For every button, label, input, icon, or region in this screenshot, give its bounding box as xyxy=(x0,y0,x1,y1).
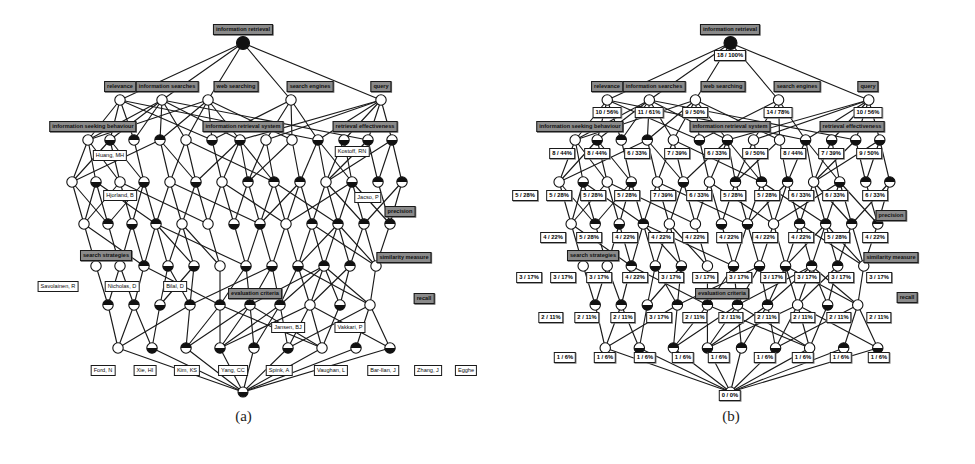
support-label-r5-9: 3 / 17% xyxy=(828,272,854,283)
support-label-r4-3: 4 / 22% xyxy=(648,232,674,243)
node-label-kim-ks: Kim, KS xyxy=(174,365,200,376)
support-label-r7-6: 1 / 6% xyxy=(792,352,814,363)
support-label-r7-0: 1 / 6% xyxy=(554,352,576,363)
node-label-spink-a: Spink, A xyxy=(266,365,293,376)
support-label-r7-8: 1 / 6% xyxy=(868,352,890,363)
support-label-r5-3: 4 / 22% xyxy=(622,272,648,283)
support-label-r7-1: 1 / 6% xyxy=(594,352,616,363)
support-label-r4-6: 4 / 22% xyxy=(752,232,778,243)
support-label-r4-4: 4 / 22% xyxy=(682,232,708,243)
support-label-r2-4: 6 / 33% xyxy=(704,148,730,159)
node-label-similarity-measure: similarity measure xyxy=(863,252,918,263)
node-label-recall: recall xyxy=(414,293,435,304)
node-label-query: query xyxy=(857,81,878,92)
support-label-r4-2: 4 / 22% xyxy=(612,232,638,243)
support-label-r5-5: 3 / 17% xyxy=(692,272,718,283)
support-label-r2-1: 8 / 44% xyxy=(584,148,610,159)
node-label-precision: precision xyxy=(385,206,416,217)
support-label-r3-2: 5 / 28% xyxy=(580,190,606,201)
support-label-r3-6: 5 / 28% xyxy=(720,190,746,201)
support-label-r5-1: 3 / 17% xyxy=(550,272,576,283)
node-label-query: query xyxy=(370,81,391,92)
node-label-nicholas-d: Nicholas, D xyxy=(105,281,140,292)
figure-container: information retrievalrelevanceinformatio… xyxy=(0,0,975,464)
support-label-r1-4: 10 / 56% xyxy=(854,107,883,118)
support-label-r1-3: 14 / 78% xyxy=(764,107,793,118)
support-label-r7-5: 1 / 6% xyxy=(754,352,776,363)
node-label-xie-hi: Xie, HI xyxy=(134,365,157,376)
node-label-vakkari-p: Vakkari, P xyxy=(334,322,365,333)
node-label-web-searching: web searching xyxy=(701,81,746,92)
support-label-r6-8: 2 / 11% xyxy=(826,312,851,323)
node-label-huang-mh: Huang, MH xyxy=(93,150,127,161)
node-label-evaluation-criteria: evaluation criteria xyxy=(695,288,749,299)
node-label-search-engines: search engines xyxy=(287,81,334,92)
node-label-yang-cc: Yang, CC xyxy=(218,365,248,376)
node-label-similarity-measure: similarity measure xyxy=(376,252,431,263)
node-label-search-strategies: search strategies xyxy=(80,250,132,261)
support-label-bottom: 0 / 0% xyxy=(719,390,741,401)
caption-b: (b) xyxy=(487,408,975,425)
support-label-r6-2: 2 / 11% xyxy=(610,312,635,323)
support-label-r5-4: 3 / 17% xyxy=(658,272,684,283)
support-label-r7-4: 1 / 6% xyxy=(708,352,730,363)
support-label-r2-5: 9 / 50% xyxy=(742,148,768,159)
support-label-r4-0: 4 / 22% xyxy=(540,232,566,243)
lattice-graph-b xyxy=(487,0,975,410)
support-label-r3-5: 6 / 33% xyxy=(686,190,712,201)
support-label-r6-0: 2 / 11% xyxy=(538,312,563,323)
node-label-hjorland-b: Hjorland, B xyxy=(103,190,137,201)
node-label-zhang-j: Zhang, J xyxy=(414,365,442,376)
support-label-r3-10: 6 / 33% xyxy=(862,190,888,201)
support-label-r5-2: 3 / 17% xyxy=(586,272,612,283)
node-label-savolainen-r: Savolainen, R xyxy=(38,281,79,292)
node-label-jacso-p: Jacso, P xyxy=(354,192,381,203)
caption-a: (a) xyxy=(0,408,487,425)
node-label-search-engines: search engines xyxy=(774,81,821,92)
support-label-r5-8: 3 / 17% xyxy=(794,272,820,283)
support-label-r5-7: 3 / 17% xyxy=(760,272,786,283)
node-label-bilal-d: Bilal, D xyxy=(163,281,187,292)
support-label-top: 18 / 100% xyxy=(714,50,746,61)
support-label-r4-8: 5 / 28% xyxy=(824,232,850,243)
node-label-relevance: relevance xyxy=(591,81,623,92)
support-label-r6-1: 2 / 11% xyxy=(574,312,599,323)
support-label-r6-4: 2 / 11% xyxy=(682,312,707,323)
node-label-kostoff-rn: Kostoff, RN xyxy=(335,146,370,157)
node-label-information-searches: information searches xyxy=(623,81,686,92)
node-label-information-retrieval: information retrieval xyxy=(700,24,760,35)
support-label-r2-7: 7 / 39% xyxy=(818,148,844,159)
support-label-r4-9: 4 / 22% xyxy=(862,232,888,243)
support-label-r2-2: 6 / 33% xyxy=(624,148,650,159)
support-label-r3-4: 7 / 39% xyxy=(650,190,676,201)
support-label-r5-0: 3 / 17% xyxy=(516,272,542,283)
support-label-r2-3: 7 / 39% xyxy=(664,148,690,159)
support-label-r7-3: 1 / 6% xyxy=(672,352,694,363)
node-label-search-strategies: search strategies xyxy=(567,250,619,261)
support-label-r6-3: 3 / 17% xyxy=(646,312,672,323)
support-label-r4-1: 5 / 28% xyxy=(576,232,602,243)
support-label-r3-3: 5 / 28% xyxy=(614,190,640,201)
lattice-panel-b: information retrieval18 / 100%relevancei… xyxy=(487,0,975,410)
support-label-r6-6: 2 / 11% xyxy=(754,312,779,323)
node-label-information-seeking-behaviour: information seeking behaviour xyxy=(49,121,136,132)
support-label-r3-8: 6 / 33% xyxy=(788,190,814,201)
support-label-r7-2: 1 / 6% xyxy=(634,352,656,363)
support-label-r2-8: 9 / 50% xyxy=(856,148,882,159)
support-label-r2-0: 8 / 44% xyxy=(549,148,575,159)
support-label-r1-0: 10 / 56% xyxy=(593,107,622,118)
node-label-information-retrieval: information retrieval xyxy=(213,24,273,35)
support-label-r3-0: 5 / 28% xyxy=(512,190,538,201)
support-label-r6-9: 2 / 11% xyxy=(866,312,891,323)
lattice-panel-a: information retrievalrelevanceinformatio… xyxy=(0,0,487,410)
node-label-information-seeking-behaviour: information seeking behaviour xyxy=(536,121,623,132)
node-label-evaluation-criteria: evaluation criteria xyxy=(228,288,282,299)
support-label-r1-2: 9 / 50% xyxy=(682,107,708,118)
support-label-r5-6: 3 / 17% xyxy=(726,272,752,283)
node-label-recall: recall xyxy=(897,292,918,303)
node-label-information-retrieval-system: information retrieval system xyxy=(203,121,284,132)
node-label-precision: precision xyxy=(876,210,907,221)
node-label-retrieval-effectiveness: retrieval effectiveness xyxy=(820,121,885,132)
support-label-r4-7: 4 / 22% xyxy=(788,232,814,243)
node-label-relevance: relevance xyxy=(104,81,136,92)
